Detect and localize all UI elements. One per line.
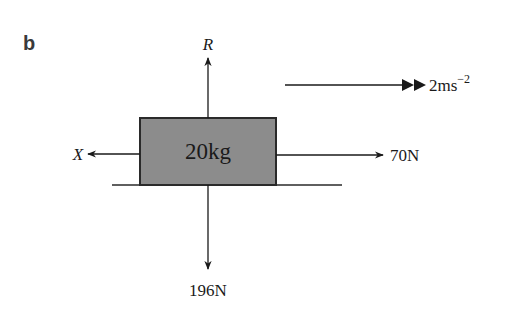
reaction-force-label: R [202,35,214,54]
acceleration-label: 2ms−2 [429,72,470,95]
free-body-diagram: 20kg R 196N X 70N 2ms−2 [0,0,522,322]
weight-force-label: 196N [189,281,227,300]
mass-label: 20kg [185,139,232,164]
applied-force-label: 70N [390,146,419,165]
acceleration-arrow [285,79,426,91]
resistance-force-label: X [72,145,84,164]
